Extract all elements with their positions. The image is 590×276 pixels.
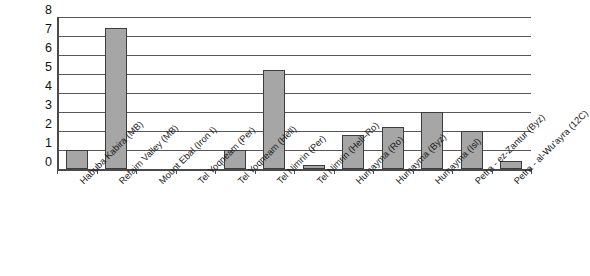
y-axis-tick-labels: 876543210: [30, 10, 52, 170]
y-axis-tick-label: 4: [30, 80, 52, 92]
y-axis-tick-label: 5: [30, 61, 52, 73]
y-axis-tick-label: 3: [30, 99, 52, 111]
y-axis-tick-label: 2: [30, 118, 52, 130]
y-axis-tick-label: 6: [30, 42, 52, 54]
x-axis-tick: [57, 169, 58, 174]
y-axis-tick-label: 1: [30, 137, 52, 149]
plot-area: [57, 17, 531, 169]
y-axis-tick-label: 0: [30, 156, 52, 168]
y-axis-tick-label: 8: [30, 4, 52, 16]
bar[interactable]: [66, 150, 88, 169]
y-axis-tick-label: 7: [30, 23, 52, 35]
bar-series: [57, 17, 531, 169]
bar-slot: [57, 17, 97, 169]
